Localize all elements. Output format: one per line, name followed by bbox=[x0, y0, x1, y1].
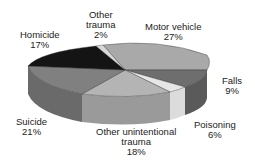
label-homicide: Homicide17% bbox=[20, 30, 60, 50]
label-poisoning: Poisoning6% bbox=[194, 120, 236, 140]
pie-chart: Motor vehicle27% Falls9% Poisoning6% Oth… bbox=[0, 0, 255, 167]
label-other-trauma: Othertrauma2% bbox=[86, 10, 116, 40]
label-falls: Falls9% bbox=[222, 76, 242, 96]
label-motor-vehicle: Motor vehicle27% bbox=[145, 22, 202, 42]
label-suicide: Suicide21% bbox=[16, 117, 47, 137]
label-other-unintentional: Other unintentionaltrauma18% bbox=[96, 127, 176, 157]
